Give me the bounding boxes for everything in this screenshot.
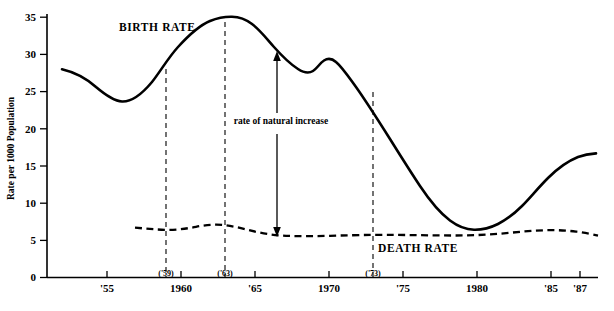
chart-container: Rate per 1000 Population 35 30 25 20 15 … — [0, 0, 614, 311]
x-tick-label-1970: 1970 — [318, 282, 341, 294]
y-tick-label-0: 0 — [31, 271, 37, 283]
y-tick-label-25: 25 — [25, 85, 37, 97]
x-marker-label-1959: ('59) — [158, 269, 174, 278]
x-tick-label-1987: '87 — [573, 282, 588, 294]
x-tick-label-1955: '55 — [100, 282, 115, 294]
x-marker-label-1963: ('63) — [217, 269, 233, 278]
x-tick-label-1960: 1960 — [170, 282, 193, 294]
natural-increase-label: rate of natural increase — [234, 116, 329, 126]
x-tick-label-1985: '85 — [544, 282, 559, 294]
y-tick-label-10: 10 — [25, 197, 37, 209]
birth-rate-curve — [62, 17, 596, 230]
vital-rates-line-chart: Rate per 1000 Population 35 30 25 20 15 … — [0, 0, 614, 311]
y-tick-label-15: 15 — [25, 160, 37, 172]
x-tick-label-1975: '75 — [396, 282, 411, 294]
y-axis-title: Rate per 1000 Population — [6, 96, 16, 200]
death-rate-label: DEATH RATE — [378, 242, 458, 254]
x-marker-label-1973: ('73) — [365, 269, 381, 278]
y-tick-label-35: 35 — [25, 11, 37, 23]
death-rate-curve — [135, 225, 598, 236]
y-tick-label-5: 5 — [31, 234, 37, 246]
y-tick-label-20: 20 — [25, 123, 37, 135]
birth-rate-label: BIRTH RATE — [119, 21, 196, 33]
x-tick-label-1980: 1980 — [466, 282, 489, 294]
x-tick-label-1965: '65 — [248, 282, 263, 294]
y-tick-label-30: 30 — [25, 48, 37, 60]
natural-increase-arrow — [273, 51, 281, 237]
marker-guides: ('59) ('63) ('73) — [158, 22, 381, 278]
y-axis-ticks: 35 30 25 20 15 10 5 0 — [25, 11, 47, 283]
